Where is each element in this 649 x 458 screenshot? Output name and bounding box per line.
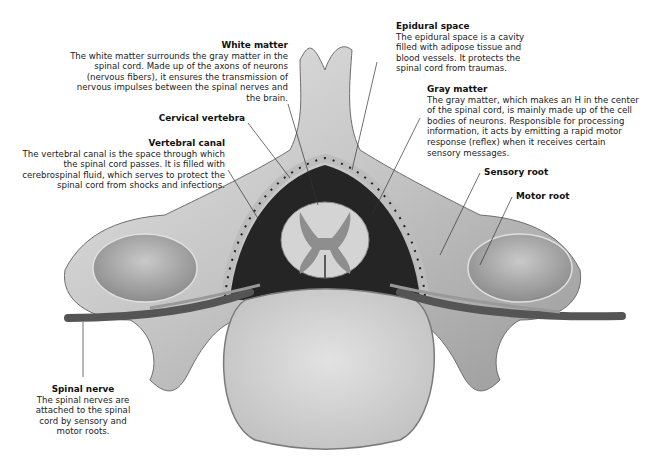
left-articular-facet (93, 234, 197, 302)
label-cervical-vertebra: Cervical vertebra (150, 113, 245, 124)
label-title: Gray matter (427, 84, 641, 95)
right-articular-facet (468, 234, 572, 302)
label-description: The epidural space is a cavity filled wi… (396, 32, 546, 74)
label-epidural-space: Epidural space The epidural space is a c… (396, 21, 546, 74)
vertebral-body (224, 289, 435, 449)
label-title: Epidural space (396, 21, 546, 32)
label-description: The spinal nerves are attached to the sp… (30, 395, 136, 437)
label-title: Spinal nerve (30, 384, 136, 395)
label-vertebral-canal: Vertebral canal The vertebral canal is t… (15, 138, 225, 191)
label-title: Vertebral canal (15, 138, 225, 149)
label-gray-matter: Gray matter The gray matter, which makes… (427, 84, 641, 158)
label-description: The vertebral canal is the space through… (15, 149, 225, 191)
label-title: Cervical vertebra (150, 113, 245, 124)
label-title: Sensory root (484, 167, 574, 178)
label-sensory-root: Sensory root (484, 167, 574, 178)
label-description: The white matter surrounds the gray matt… (60, 51, 288, 104)
label-title: Motor root (516, 191, 606, 202)
label-motor-root: Motor root (516, 191, 606, 202)
label-spinal-nerve: Spinal nerve The spinal nerves are attac… (30, 384, 136, 437)
label-description: The gray matter, which makes an H in the… (427, 95, 641, 159)
label-white-matter: White matter The white matter surrounds … (60, 40, 288, 104)
label-title: White matter (60, 40, 288, 51)
